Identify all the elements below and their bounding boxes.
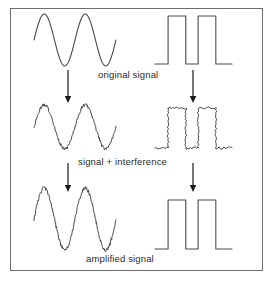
digital-square-regenerated <box>155 200 232 249</box>
arrow-digital-2-head <box>190 185 196 192</box>
arrow-digital-1 <box>190 70 196 103</box>
analogue-sine-noisy <box>34 104 116 150</box>
arrow-analogue-1-head <box>65 96 71 103</box>
caption-original-signal: original signal <box>98 69 158 80</box>
arrow-digital-2 <box>190 163 196 192</box>
analogue-sine-clean <box>34 14 116 66</box>
analogue-sine-amplified-noisy <box>34 187 116 252</box>
digital-square-noisy <box>155 107 232 149</box>
arrow-analogue-1 <box>65 70 71 103</box>
waveform-canvas <box>0 0 276 281</box>
caption-amplified-signal: amplified signal <box>86 253 154 264</box>
signal-regeneration-figure: original signal signal + interference am… <box>0 0 276 281</box>
arrows-group <box>65 70 196 192</box>
caption-signal-plus-interference: signal + interference <box>78 156 167 167</box>
arrow-analogue-2 <box>65 163 71 192</box>
arrow-analogue-2-head <box>65 185 71 192</box>
arrow-digital-1-head <box>190 96 196 103</box>
digital-square-clean <box>155 16 232 64</box>
waveforms-group <box>34 14 232 252</box>
